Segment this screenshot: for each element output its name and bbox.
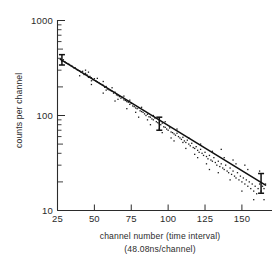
figure-panel: 1000 100 10 255075100125150 counts per c… — [0, 0, 273, 266]
data-point — [181, 139, 182, 140]
data-point — [88, 72, 89, 73]
data-point — [170, 131, 171, 132]
data-point — [204, 152, 205, 153]
data-point — [111, 87, 112, 88]
data-point — [129, 104, 130, 105]
x-tick-label: 25 — [52, 213, 63, 224]
data-point — [235, 163, 236, 164]
x-tick-label: 50 — [89, 213, 100, 224]
data-point — [176, 128, 177, 129]
data-point — [200, 149, 201, 150]
data-point — [259, 170, 260, 171]
data-point — [150, 117, 151, 118]
data-point — [255, 186, 256, 187]
data-point — [132, 105, 133, 106]
y-tick-label-100: 100 — [37, 110, 53, 121]
data-point — [176, 133, 177, 134]
data-point — [166, 128, 167, 129]
data-point — [150, 124, 151, 125]
data-point — [165, 127, 166, 128]
data-point — [147, 119, 148, 120]
data-point — [182, 137, 183, 138]
data-point — [218, 161, 219, 162]
data-point — [237, 172, 238, 173]
data-point — [229, 179, 230, 180]
data-point — [216, 165, 217, 166]
data-point — [232, 159, 233, 160]
data-point — [179, 137, 180, 138]
data-point — [225, 165, 226, 166]
data-point — [238, 179, 239, 180]
data-point — [91, 84, 92, 85]
data-point — [141, 107, 142, 108]
data-point — [134, 106, 135, 107]
x-axis-tick-labels: 255075100125150 — [52, 213, 250, 224]
data-point — [247, 169, 248, 170]
data-point — [191, 143, 192, 144]
y-axis-title: counts per channel — [14, 73, 24, 148]
data-point — [139, 110, 140, 111]
data-point — [160, 124, 161, 125]
x-tick-label: 75 — [126, 213, 137, 224]
data-point — [224, 157, 225, 158]
data-point — [114, 100, 115, 101]
data-point — [129, 100, 130, 101]
data-point — [141, 111, 142, 112]
data-point — [153, 119, 154, 120]
data-point — [207, 158, 208, 159]
data-point — [222, 167, 223, 168]
data-point — [221, 149, 222, 150]
data-point — [252, 183, 253, 184]
data-point — [218, 172, 219, 173]
data-point — [172, 132, 173, 133]
data-point — [246, 179, 247, 180]
data-point — [193, 147, 194, 148]
data-point — [224, 169, 225, 170]
data-point — [219, 166, 220, 167]
data-point — [173, 133, 174, 134]
data-point — [103, 81, 104, 82]
exponential-fit-line — [60, 59, 265, 185]
data-point — [221, 163, 222, 164]
x-axis-subtitle: (48.08ns/channel) — [124, 244, 195, 254]
data-point — [175, 135, 176, 136]
data-point — [156, 121, 157, 122]
data-point — [145, 115, 146, 116]
data-point — [135, 112, 136, 113]
x-tick-label: 150 — [234, 213, 250, 224]
data-point — [244, 165, 245, 166]
data-point — [262, 186, 263, 187]
data-point — [182, 142, 183, 143]
data-point — [91, 80, 92, 81]
data-point — [138, 117, 139, 118]
decay-plot-svg: 1000 100 10 255075100125150 counts per c… — [0, 0, 273, 266]
y-tick-label-1000: 1000 — [31, 15, 53, 26]
axes-spines — [58, 20, 273, 211]
data-point — [197, 150, 198, 151]
x-tick-label: 125 — [197, 213, 213, 224]
data-point — [173, 140, 174, 141]
data-point — [234, 175, 235, 176]
data-point — [190, 145, 191, 146]
data-point — [263, 188, 264, 189]
data-point — [212, 161, 213, 162]
data-point — [241, 190, 242, 191]
data-point — [243, 177, 244, 178]
data-point — [253, 199, 254, 200]
data-point — [184, 140, 185, 141]
data-point — [227, 170, 228, 171]
data-point — [185, 142, 186, 143]
data-point — [215, 162, 216, 163]
data-point — [198, 152, 199, 153]
x-axis-ticks — [58, 205, 242, 211]
data-point — [126, 108, 127, 109]
data-point — [162, 132, 163, 133]
data-point — [194, 154, 195, 155]
data-point — [157, 122, 158, 123]
data-point — [229, 167, 230, 168]
data-point — [259, 183, 260, 184]
data-point — [185, 148, 186, 149]
data-point — [106, 89, 107, 90]
data-point — [194, 148, 195, 149]
data-point — [257, 188, 258, 189]
